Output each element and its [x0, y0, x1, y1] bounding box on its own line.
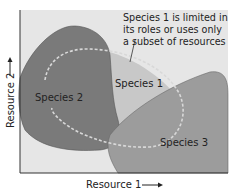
species-1-label: Species 1: [115, 78, 163, 89]
niche-diagram: Species 1 is limited in its roles or use…: [0, 0, 234, 191]
x-arrow-icon: [142, 183, 163, 188]
annotation-line-3: a subset of resources: [123, 36, 226, 47]
species-3-label: Species 3: [160, 137, 208, 148]
x-axis-label: Resource 1: [86, 179, 141, 190]
annotation-line-2: its roles or uses only: [123, 24, 222, 35]
species-2-label: Species 2: [35, 92, 83, 103]
annotation-line-1: Species 1 is limited in: [123, 12, 228, 23]
y-axis-label: Resource 2: [5, 73, 16, 128]
